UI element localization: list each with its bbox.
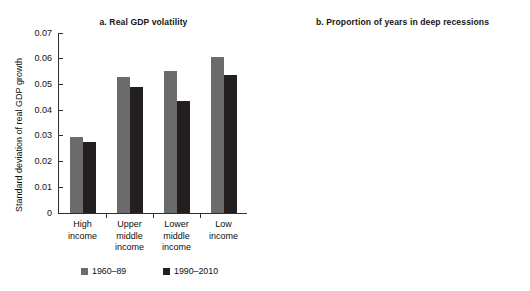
legend-item-1960-89: 1960–89 bbox=[81, 266, 126, 276]
panel-a-title: a. Real GDP volatility bbox=[0, 17, 265, 27]
tick-mark bbox=[59, 58, 63, 59]
panel-a-x-axis-label: Lowincome bbox=[200, 219, 247, 242]
bar-1990-2010 bbox=[83, 142, 96, 213]
x-axis-label-line: income bbox=[106, 242, 153, 254]
panel-b-title: b. Proportion of years in deep recession… bbox=[265, 17, 530, 27]
y-tick-label: 0.03 bbox=[34, 129, 52, 141]
x-axis-label-line: middle bbox=[106, 231, 153, 243]
bar-1990-2010 bbox=[224, 75, 237, 213]
y-tick-label: 0.07 bbox=[34, 27, 52, 39]
x-axis-label-line: income bbox=[200, 231, 247, 243]
y-tick-label: 0 bbox=[47, 207, 52, 219]
tick-mark bbox=[59, 187, 63, 188]
bar-1990-2010 bbox=[177, 101, 190, 213]
panel-a-x-tick bbox=[200, 213, 201, 218]
x-axis-label-line: Lower bbox=[153, 219, 200, 231]
panel-a-y-axis-title: Standard deviation of real GDP growth bbox=[14, 58, 24, 212]
tick-mark bbox=[59, 33, 63, 34]
panel-a-x-axis-label: Highincome bbox=[59, 219, 106, 242]
panel-a-x-tick bbox=[106, 213, 107, 218]
y-tick-label: 0.06 bbox=[34, 52, 52, 64]
y-tick-label: 0.04 bbox=[34, 104, 52, 116]
y-tick-label: 0.05 bbox=[34, 78, 52, 90]
x-axis-label-line: middle bbox=[153, 231, 200, 243]
panel-a-x-axis-label: Uppermiddleincome bbox=[106, 219, 153, 254]
panel-a-bar-group bbox=[117, 33, 143, 213]
panel-a-plot-area: 00.010.020.030.040.050.060.07HighincomeU… bbox=[59, 33, 247, 213]
panel-a-bar-group bbox=[70, 33, 96, 213]
tick-mark bbox=[59, 110, 63, 111]
figure-two-panel-bar-charts: a. Real GDP volatility Standard deviatio… bbox=[0, 0, 530, 291]
panel-a-x-tick bbox=[153, 213, 154, 218]
tick-mark bbox=[59, 161, 63, 162]
bar-1960-89 bbox=[117, 77, 130, 213]
legend-label: 1960–89 bbox=[92, 266, 126, 276]
panel-a-legend: 1960–891990–2010 bbox=[59, 266, 247, 280]
y-tick-label: 0.02 bbox=[34, 155, 52, 167]
bar-1990-2010 bbox=[130, 87, 143, 213]
legend-label: 1990–2010 bbox=[174, 266, 218, 276]
y-tick-label: 0.01 bbox=[34, 181, 52, 193]
bar-1960-89 bbox=[164, 71, 177, 213]
x-axis-label-line: Low bbox=[200, 219, 247, 231]
bar-1960-89 bbox=[70, 137, 83, 213]
bar-1960-89 bbox=[211, 57, 224, 213]
x-axis-label-line: Upper bbox=[106, 219, 153, 231]
tick-mark bbox=[59, 213, 63, 214]
x-axis-label-line: income bbox=[59, 231, 106, 243]
legend-swatch-1990-2010 bbox=[163, 268, 170, 275]
tick-mark bbox=[59, 135, 63, 136]
panel-a-bar-group bbox=[164, 33, 190, 213]
x-axis-label-line: income bbox=[153, 242, 200, 254]
tick-mark bbox=[59, 84, 63, 85]
panel-a-x-axis-label: Lowermiddleincome bbox=[153, 219, 200, 254]
chart-panel-b: b. Proportion of years in deep recession… bbox=[265, 0, 530, 291]
legend-swatch-1960-89 bbox=[81, 268, 88, 275]
x-axis-label-line: High bbox=[59, 219, 106, 231]
legend-item-1990-2010: 1990–2010 bbox=[163, 266, 218, 276]
chart-panel-a: a. Real GDP volatility Standard deviatio… bbox=[0, 0, 265, 291]
panel-a-bar-group bbox=[211, 33, 237, 213]
